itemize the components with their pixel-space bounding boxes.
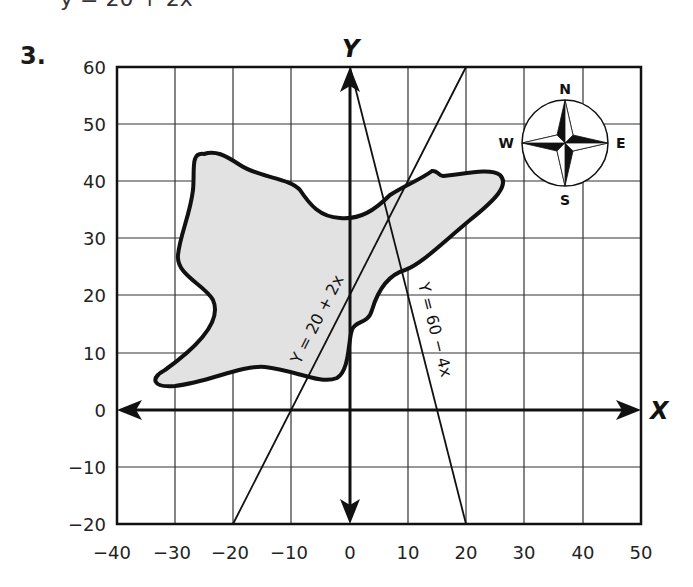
x-tick: −40 xyxy=(93,542,131,563)
x-tick: −10 xyxy=(270,542,308,563)
y-tick: −20 xyxy=(68,514,106,535)
x-tick: 10 xyxy=(397,542,420,563)
compass-east-label: E xyxy=(616,135,626,151)
x-tick: 0 xyxy=(344,542,355,563)
x-tick: −20 xyxy=(211,542,249,563)
compass-rose-icon: N E S W xyxy=(499,81,626,208)
x-tick: 50 xyxy=(630,542,653,563)
x-axis-label: X xyxy=(648,397,670,425)
y-axis-label: Y xyxy=(342,35,362,63)
y-tick: −10 xyxy=(68,457,106,478)
x-tick: −30 xyxy=(153,542,191,563)
y-tick: 60 xyxy=(83,57,106,78)
x-axis xyxy=(117,400,641,420)
y-tick: 50 xyxy=(83,114,106,135)
y-tick: 0 xyxy=(95,400,106,421)
line-label-y-60-minus-4x: Y = 60 − 4x xyxy=(414,279,456,379)
compass-west-label: W xyxy=(499,135,514,151)
x-tick: 40 xyxy=(572,542,595,563)
x-tick-labels: −40 −30 −20 −10 0 10 20 30 40 50 xyxy=(93,542,652,563)
x-tick: 30 xyxy=(513,542,536,563)
y-tick: 10 xyxy=(83,343,106,364)
y-tick: 40 xyxy=(83,171,106,192)
y-tick: 20 xyxy=(83,285,106,306)
y-tick-labels: 60 50 40 30 20 10 0 −10 −20 xyxy=(68,57,106,535)
compass-north-label: N xyxy=(559,81,571,97)
y-tick: 30 xyxy=(83,228,106,249)
coordinate-plane-chart: X Y 60 50 40 30 20 10 0 −10 −20 −40 −30 … xyxy=(0,0,693,587)
x-tick: 20 xyxy=(455,542,478,563)
compass-south-label: S xyxy=(560,192,570,208)
